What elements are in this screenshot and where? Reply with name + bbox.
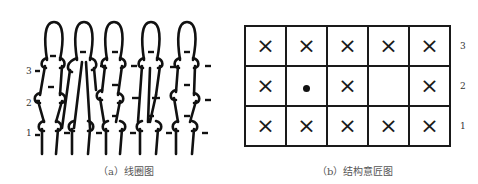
cross-mark-icon: × [297, 33, 315, 58]
grid-cell [286, 66, 327, 106]
grid-cell [368, 66, 409, 106]
loop-diagram-panel: 3 2 1 （a）线圈图 [0, 0, 235, 184]
grid-cell: × [327, 106, 368, 146]
course-label-1: 1 [26, 128, 32, 138]
cross-mark-icon: × [338, 113, 356, 138]
course-label-3: 3 [26, 66, 32, 76]
cross-mark-icon: × [256, 113, 274, 138]
structure-notation-panel: ××××××××××××× 3 2 1 （b）结构意匠图 [235, 0, 478, 184]
loop-diagram [0, 0, 235, 184]
top-loops [45, 22, 195, 60]
grid-cell: × [409, 106, 450, 146]
cross-mark-icon: × [338, 73, 356, 98]
grid-cell: × [327, 26, 368, 66]
dot-mark-icon [303, 85, 310, 92]
grid-cell: × [286, 106, 327, 146]
grid-row: ××××× [245, 106, 450, 146]
grid-cell: × [245, 66, 286, 106]
cross-mark-icon: × [256, 73, 274, 98]
grid-cell: × [245, 106, 286, 146]
caption-a: （a）线圈图 [98, 163, 154, 178]
cross-mark-icon: × [420, 113, 438, 138]
grid-row: ××××× [245, 26, 450, 66]
cross-mark-icon: × [420, 73, 438, 98]
cross-mark-icon: × [256, 33, 274, 58]
grid-cell: × [409, 26, 450, 66]
row-label-1: 1 [460, 121, 466, 131]
course-label-2: 2 [26, 98, 32, 108]
notation-grid: ××××××××××××× [244, 25, 451, 147]
grid-cell: × [327, 66, 368, 106]
grid-row: ××× [245, 66, 450, 106]
cross-mark-icon: × [379, 33, 397, 58]
grid-cell: × [245, 26, 286, 66]
row-label-2: 2 [460, 81, 466, 91]
grid-cell: × [286, 26, 327, 66]
grid-cell: × [409, 66, 450, 106]
cross-mark-icon: × [297, 113, 315, 138]
grid-cell: × [368, 106, 409, 146]
grid-cell: × [368, 26, 409, 66]
cross-mark-icon: × [420, 33, 438, 58]
row-label-3: 3 [460, 41, 466, 51]
cross-mark-icon: × [338, 33, 356, 58]
cross-mark-icon: × [379, 113, 397, 138]
caption-b: （b）结构意匠图 [317, 163, 393, 178]
